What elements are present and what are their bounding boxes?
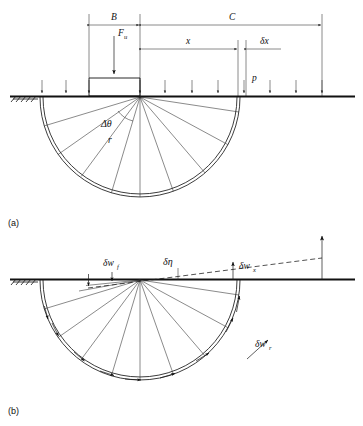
panel-a: B C x δx F u [8, 12, 355, 228]
dimension-x-label: x [185, 36, 191, 46]
displacement-wr-label: δw [255, 339, 266, 349]
displacement-wf-subscript: f [117, 263, 120, 270]
load-Fu-subscript: u [124, 33, 128, 40]
displacement-wx-label: δw [239, 261, 250, 271]
rotation-dashed-line [88, 258, 322, 288]
panel-a-label: (a) [8, 218, 19, 228]
surcharge-arrows-left [42, 80, 89, 93]
displacement-wx-subscript: x [252, 266, 256, 273]
footing-block [89, 78, 140, 96]
panel-b: δw f δη δw x δw r (b) [8, 236, 355, 416]
angle-delta-theta-a: Δθ r [100, 111, 133, 145]
displacement-wr-subscript: r [269, 344, 272, 351]
angle-delta-theta-label: Δθ [100, 118, 112, 129]
dimension-delta-x-label: δx [260, 36, 269, 46]
surcharge-p-label: p [251, 73, 257, 83]
radial-fan-a [44, 97, 239, 197]
dimension-B: B [90, 12, 139, 25]
load-Fu-label: F [117, 28, 124, 38]
dimension-delta-x: δx [247, 36, 281, 49]
figure-root: B C x δx F u [0, 0, 363, 426]
load-Fu: F u [114, 28, 128, 74]
dimension-x: x [142, 36, 237, 49]
slip-displacement-arrows [44, 296, 239, 380]
dimension-C: C [142, 12, 321, 25]
figure-svg: B C x δx F u [0, 0, 363, 426]
panel-b-label: (b) [8, 406, 19, 416]
radial-fan-b [44, 280, 239, 380]
surcharge-arrows-right [140, 80, 322, 93]
dimension-B-label: B [111, 12, 117, 22]
radius-r-label: r [108, 135, 112, 145]
panel-b-labels: δw f δη δw x δw r [103, 256, 272, 351]
displacement-wf-label: δw [103, 258, 114, 268]
panel-a-witness-lines [89, 14, 322, 97]
dimension-C-label: C [229, 12, 236, 22]
rotation-delta-eta-label: δη [163, 256, 173, 267]
